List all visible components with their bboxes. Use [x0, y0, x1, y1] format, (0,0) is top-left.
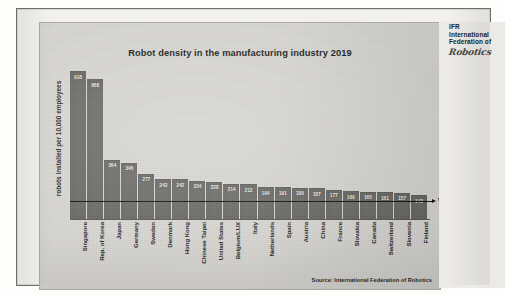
bar-value-label: 243: [155, 182, 171, 188]
bar-value-label: 189: [292, 190, 308, 196]
category-slot: Spain: [275, 222, 291, 280]
bar[interactable]: 165: [360, 192, 376, 219]
bar[interactable]: 364: [104, 160, 120, 219]
bar-slot: 277: [138, 67, 154, 219]
bar-value-label: 212: [240, 187, 256, 193]
logo-script-robotics: Robotics: [448, 47, 505, 57]
scan-page-frame: Robot density in the manufacturing indus…: [16, 8, 491, 286]
bar[interactable]: 194: [258, 187, 274, 219]
logo-line-federation: Federation of: [449, 38, 505, 46]
bar-slot: 191: [275, 67, 291, 219]
bar-slot: 157: [394, 67, 410, 219]
ifr-logo: IFR International Federation of Robotics: [449, 23, 505, 57]
bar-value-label: 364: [104, 162, 120, 168]
category-slot: Rep. of Korea: [87, 222, 103, 280]
bar-value-label: 234: [189, 183, 205, 189]
category-slot: China: [309, 222, 325, 280]
bar[interactable]: 191: [275, 187, 291, 219]
page-right-margin: [439, 22, 505, 288]
bar-value-label: 868: [87, 82, 103, 88]
bar-slot: 165: [360, 67, 376, 219]
bar[interactable]: 918: [70, 71, 86, 219]
bar[interactable]: 161: [377, 192, 393, 219]
bar[interactable]: 169: [343, 191, 359, 219]
bar-value-label: 177: [326, 192, 342, 198]
bar-slot: 194: [258, 67, 274, 219]
category-slot: Slovenia: [394, 222, 410, 280]
bar-slot: 212: [240, 67, 256, 219]
x-axis-baseline: [70, 219, 430, 220]
bar-value-label: 918: [70, 74, 86, 80]
bar-slot: 169: [343, 67, 359, 219]
bar-value-label: 242: [172, 182, 188, 188]
category-slot: Italy: [240, 222, 256, 280]
category-slot: Canada: [360, 222, 376, 280]
world-reference-line: [70, 201, 434, 203]
bar[interactable]: 346: [121, 163, 137, 219]
logo-abbr: IFR: [449, 23, 505, 31]
plot-area: 9188683643462772432422342282142121941911…: [70, 67, 427, 219]
bar[interactable]: 157: [394, 193, 410, 219]
category-slot: Slovakia: [343, 222, 359, 280]
scanned-chart-page: Robot density in the manufacturing indus…: [0, 0, 505, 295]
bar[interactable]: 189: [292, 188, 308, 219]
bar-slot: 346: [121, 67, 137, 219]
y-axis-label: robots installed per 10,000 employees: [55, 69, 62, 209]
category-slot: United States: [206, 222, 222, 280]
category-slot: Denmark: [155, 222, 171, 280]
bar-value-label: 214: [223, 186, 239, 192]
category-slot: Hong Kong: [172, 222, 188, 280]
bar-slot: 918: [70, 67, 86, 219]
bar[interactable]: 868: [87, 79, 103, 219]
bar-value-label: 191: [275, 190, 291, 196]
x-axis-category-labels: SingaporeRep. of KoreaJapanGermanySweden…: [70, 222, 427, 280]
bar-slot: 243: [155, 67, 171, 219]
world-reference-arrow-icon: [432, 199, 436, 203]
chart-panel: Robot density in the manufacturing indus…: [39, 22, 441, 290]
bar-value-label: 187: [309, 191, 325, 197]
bar-value-label: 165: [360, 194, 376, 200]
category-slot: Singapore: [70, 222, 86, 280]
bar-value-label: 228: [206, 184, 222, 190]
bar[interactable]: 277: [138, 174, 154, 219]
category-label: Finland: [422, 222, 429, 243]
bar-slot: 187: [309, 67, 325, 219]
category-slot: Germany: [121, 222, 137, 280]
category-slot: Japan: [104, 222, 120, 280]
bar[interactable]: 242: [172, 179, 188, 219]
category-slot: France: [326, 222, 342, 280]
category-slot: Switzerland: [377, 222, 393, 280]
category-slot: Austria: [292, 222, 308, 280]
bar-value-label: 194: [258, 190, 274, 196]
category-slot: Belgium/LUX: [223, 222, 239, 280]
bar-slot: 234: [189, 67, 205, 219]
source-note: Source: International Federation of Robo…: [312, 277, 432, 283]
bar-slot: 189: [292, 67, 308, 219]
bar-value-label: 277: [138, 176, 154, 182]
category-slot: Finland: [411, 222, 427, 280]
bar-slot: 242: [172, 67, 188, 219]
bar-value-label: 346: [121, 165, 137, 171]
bar-value-label: 161: [377, 195, 393, 201]
bar[interactable]: 234: [189, 181, 205, 219]
logo-line-international: International: [449, 31, 505, 39]
bar-value-label: 169: [343, 194, 359, 200]
category-slot: Sweden: [138, 222, 154, 280]
category-slot: Chinese Taipei: [189, 222, 205, 280]
bar[interactable]: 243: [155, 179, 171, 219]
category-slot: Netherlands: [258, 222, 274, 280]
bar-slot: 177: [326, 67, 342, 219]
bar[interactable]: 177: [326, 190, 342, 219]
bar-series: 9188683643462772432422342282142121941911…: [70, 67, 427, 219]
bar-slot: 364: [104, 67, 120, 219]
bar-slot: 143: [411, 67, 427, 219]
bar-slot: 214: [223, 67, 239, 219]
bar[interactable]: 143: [411, 195, 427, 219]
bar-slot: 161: [377, 67, 393, 219]
bar-slot: 228: [206, 67, 222, 219]
bar[interactable]: 187: [309, 188, 325, 219]
chart-title: Robot density in the manufacturing indus…: [40, 48, 440, 58]
bar-slot: 868: [87, 67, 103, 219]
